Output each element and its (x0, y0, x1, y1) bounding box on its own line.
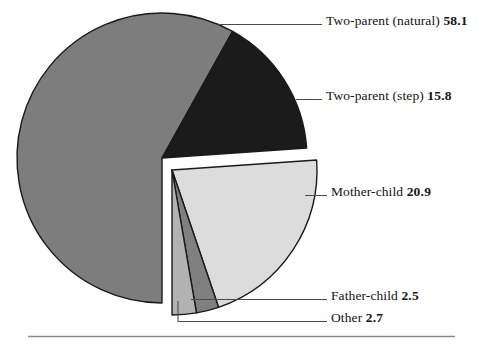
callout-value-mother-child: 20.9 (407, 184, 431, 199)
pie-chart-figure: Two-parent (natural) 58.1 Two-parent (st… (0, 0, 482, 347)
callout-value-father-child: 2.5 (401, 288, 418, 303)
callout-label-mother-child: Mother-child (331, 184, 403, 199)
callout-other: Other 2.7 (331, 311, 383, 325)
callout-label-two-parent-step: Two-parent (step) (326, 88, 424, 103)
callout-value-two-parent-step: 15.8 (427, 88, 451, 103)
callout-father-child: Father-child 2.5 (331, 289, 419, 303)
callout-label-other: Other (331, 310, 362, 325)
callout-label-two-parent-natural: Two-parent (natural) (326, 13, 440, 28)
callout-value-other: 2.7 (366, 310, 383, 325)
callout-two-parent-natural: Two-parent (natural) 58.1 (326, 14, 468, 28)
callout-two-parent-step: Two-parent (step) 15.8 (326, 89, 452, 103)
callout-value-two-parent-natural: 58.1 (443, 13, 467, 28)
callout-mother-child: Mother-child 20.9 (331, 185, 431, 199)
callout-label-father-child: Father-child (331, 288, 398, 303)
